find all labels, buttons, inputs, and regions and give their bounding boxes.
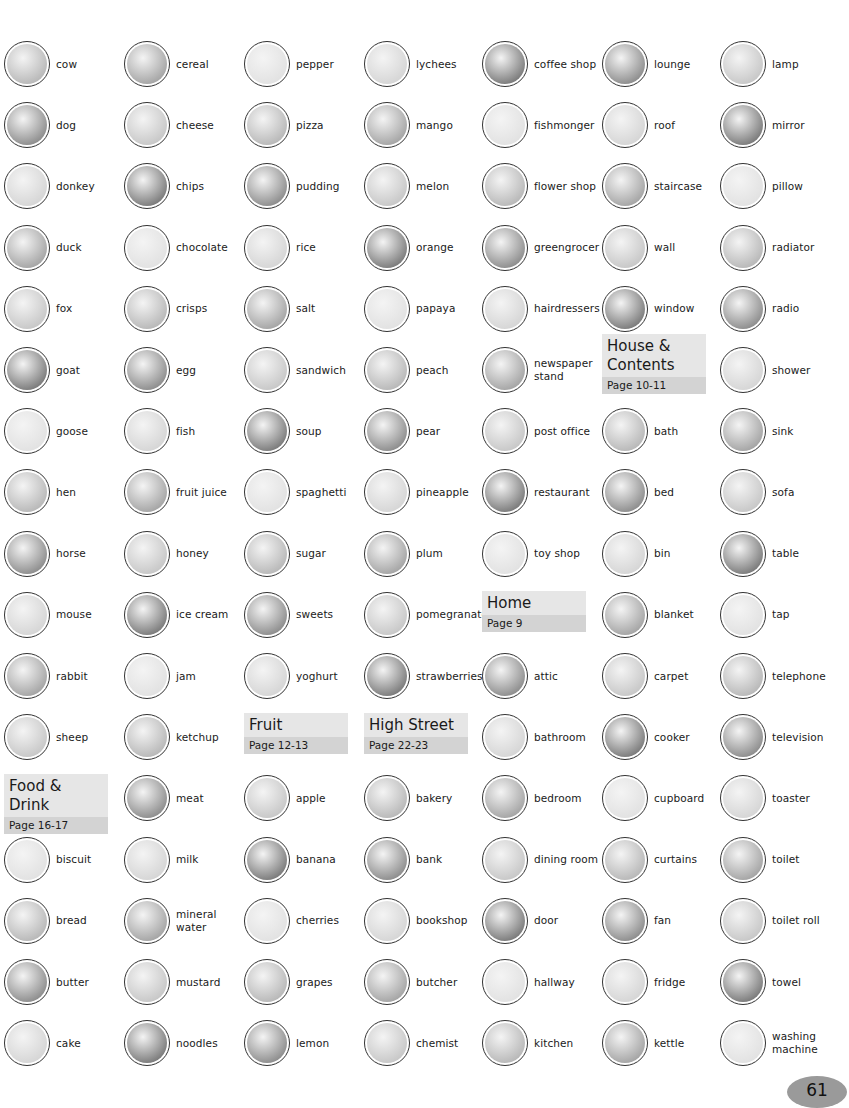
picture-circle-icon	[244, 898, 290, 944]
picture-circle-icon	[482, 959, 528, 1005]
item-label: newspaper stand	[534, 357, 594, 383]
picture-circle-icon	[244, 408, 290, 454]
section-header: High StreetPage 22-23	[364, 713, 468, 754]
index-item: fishmonger	[482, 97, 604, 153]
index-item: fox	[4, 281, 126, 337]
item-label: spaghetti	[296, 486, 346, 499]
picture-circle-icon	[720, 469, 766, 515]
picture-circle-icon	[720, 163, 766, 209]
picture-circle-icon	[4, 898, 50, 944]
item-label: flower shop	[534, 180, 596, 193]
item-label: table	[772, 547, 799, 560]
index-item: toy shop	[482, 526, 604, 582]
section-page-ref: Page 10-11	[602, 377, 706, 394]
picture-circle-icon	[602, 898, 648, 944]
item-label: telephone	[772, 670, 826, 683]
picture-circle-icon	[124, 1020, 170, 1066]
item-label: carpet	[654, 670, 688, 683]
picture-circle-icon	[124, 531, 170, 577]
item-label: bookshop	[416, 914, 468, 927]
index-item: butcher	[364, 954, 486, 1010]
index-item: fish	[124, 403, 246, 459]
picture-circle-icon	[482, 41, 528, 87]
picture-circle-icon	[364, 41, 410, 87]
item-label: dog	[56, 119, 76, 132]
index-item: rice	[244, 220, 366, 276]
picture-circle-icon	[124, 592, 170, 638]
index-item: goat	[4, 342, 126, 398]
index-item: toaster	[720, 770, 842, 826]
item-label: fishmonger	[534, 119, 595, 132]
index-item: bed	[602, 464, 724, 520]
picture-circle-icon	[482, 653, 528, 699]
item-label: kitchen	[534, 1037, 573, 1050]
item-label: sheep	[56, 731, 88, 744]
picture-circle-icon	[4, 225, 50, 271]
picture-circle-icon	[482, 1020, 528, 1066]
index-item: shower	[720, 342, 842, 398]
picture-circle-icon	[482, 286, 528, 332]
picture-circle-icon	[364, 225, 410, 271]
index-item: toilet	[720, 832, 842, 888]
picture-circle-icon	[364, 837, 410, 883]
item-label: bath	[654, 425, 678, 438]
picture-circle-icon	[720, 898, 766, 944]
index-item: hairdressers	[482, 281, 604, 337]
picture-circle-icon	[244, 775, 290, 821]
item-label: bedroom	[534, 792, 582, 805]
index-item: telephone	[720, 648, 842, 704]
picture-circle-icon	[4, 959, 50, 1005]
index-item: staircase	[602, 158, 724, 214]
index-item: table	[720, 526, 842, 582]
index-item: donkey	[4, 158, 126, 214]
index-item: bookshop	[364, 893, 486, 949]
item-label: chips	[176, 180, 204, 193]
item-label: chocolate	[176, 241, 228, 254]
index-item: hen	[4, 464, 126, 520]
picture-circle-icon	[482, 163, 528, 209]
picture-circle-icon	[720, 653, 766, 699]
index-item: plum	[364, 526, 486, 582]
picture-circle-icon	[364, 408, 410, 454]
index-item: radio	[720, 281, 842, 337]
picture-circle-icon	[124, 469, 170, 515]
picture-circle-icon	[244, 225, 290, 271]
index-item: sandwich	[244, 342, 366, 398]
index-item: horse	[4, 526, 126, 582]
item-label: salt	[296, 302, 315, 315]
item-label: sofa	[772, 486, 794, 499]
item-label: mustard	[176, 976, 220, 989]
picture-circle-icon	[4, 653, 50, 699]
index-item: duck	[4, 220, 126, 276]
picture-circle-icon	[482, 469, 528, 515]
index-item: attic	[482, 648, 604, 704]
picture-circle-icon	[364, 347, 410, 393]
index-item: pineapple	[364, 464, 486, 520]
section-header: FruitPage 12-13	[244, 713, 348, 754]
section-page-ref: Page 16-17	[4, 817, 108, 834]
index-item: ketchup	[124, 709, 246, 765]
section-title: Fruit	[244, 713, 348, 737]
item-label: donkey	[56, 180, 95, 193]
index-item: chocolate	[124, 220, 246, 276]
picture-circle-icon	[602, 592, 648, 638]
picture-circle-icon	[244, 837, 290, 883]
picture-circle-icon	[602, 775, 648, 821]
item-label: cheese	[176, 119, 214, 132]
index-item: orange	[364, 220, 486, 276]
picture-circle-icon	[482, 775, 528, 821]
picture-circle-icon	[244, 41, 290, 87]
picture-circle-icon	[364, 592, 410, 638]
index-item: radiator	[720, 220, 842, 276]
item-label: bank	[416, 853, 442, 866]
picture-circle-icon	[602, 225, 648, 271]
item-label: bread	[56, 914, 87, 927]
index-item: apple	[244, 770, 366, 826]
item-label: hairdressers	[534, 302, 600, 315]
item-label: pepper	[296, 58, 334, 71]
index-item: coffee shop	[482, 36, 604, 92]
picture-circle-icon	[482, 837, 528, 883]
item-label: biscuit	[56, 853, 91, 866]
index-item: television	[720, 709, 842, 765]
picture-circle-icon	[720, 531, 766, 577]
